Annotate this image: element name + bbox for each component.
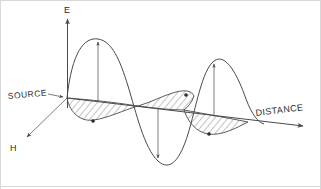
h-axis: H	[10, 98, 67, 153]
em-wave-diagram: DISTANCE E H SOURCE	[0, 0, 321, 189]
source-label: SOURCE	[7, 88, 47, 101]
h-axis-label: H	[10, 143, 17, 153]
h-crest-dot-3	[207, 132, 211, 136]
e-axis-label: E	[64, 5, 70, 15]
scan-frame	[0, 0, 321, 189]
source-leader-line	[48, 94, 63, 97]
source-callout: SOURCE	[7, 88, 63, 101]
h-crest-dot-1	[91, 119, 95, 123]
distance-axis-label: DISTANCE	[255, 102, 304, 118]
em-wave-figure-page: DISTANCE E H SOURCE	[0, 0, 321, 189]
h-field-lobe-1	[67, 98, 138, 120]
h-field-wave	[67, 91, 248, 136]
h-crest-dot-2	[184, 93, 188, 97]
